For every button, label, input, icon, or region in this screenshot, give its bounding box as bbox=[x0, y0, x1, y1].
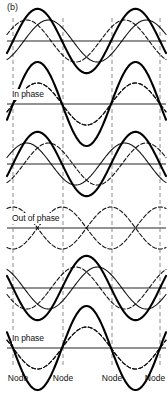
node-label-3: Node bbox=[102, 374, 122, 383]
panel-label-6: In phase bbox=[12, 333, 45, 344]
node-label-4: Node bbox=[145, 374, 165, 383]
wave-panel-6 bbox=[7, 306, 166, 390]
node-label-1: Node bbox=[8, 374, 28, 383]
wave-panel-1 bbox=[7, 9, 166, 73]
node-label-2: Node bbox=[53, 374, 73, 383]
standing-wave-figure: (b) In phaseOut of phaseIn phase NodeNod… bbox=[0, 0, 168, 393]
node-lines-group bbox=[13, 18, 160, 368]
part-label: (b) bbox=[7, 3, 18, 12]
wave-panel-3 bbox=[7, 132, 166, 196]
panel-label-4: Out of phase bbox=[12, 213, 60, 224]
panel-label-2: In phase bbox=[12, 89, 45, 100]
wave-panel-2 bbox=[7, 62, 166, 146]
wave-panel-5 bbox=[7, 256, 166, 320]
